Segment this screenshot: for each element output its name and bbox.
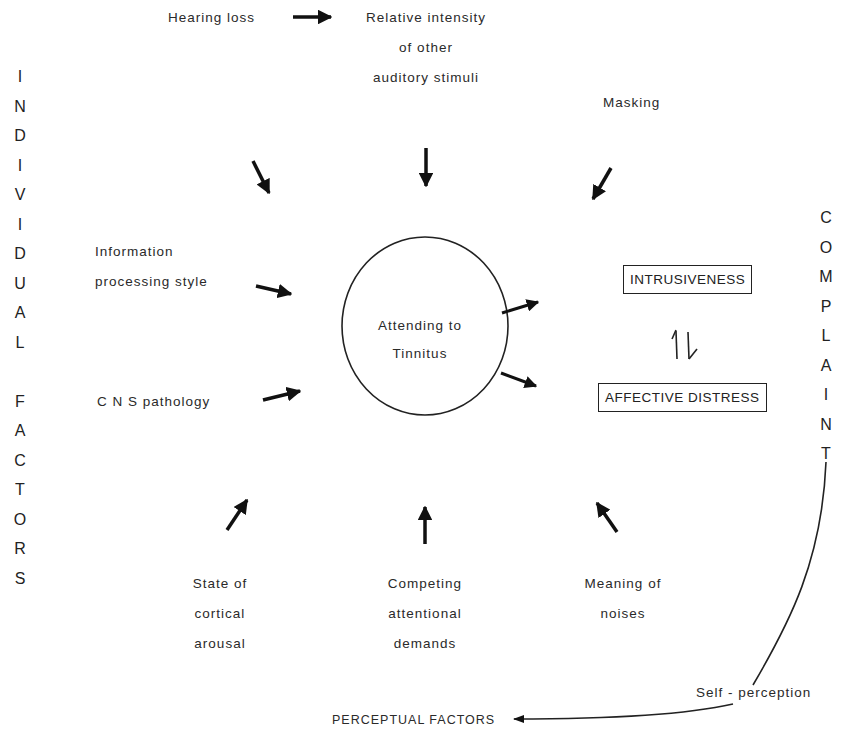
- attending-circle: [342, 237, 508, 415]
- arrow-info-to-center: [256, 286, 291, 294]
- arrow-cns-to-center: [263, 391, 300, 400]
- self-perception-curve: [753, 462, 826, 685]
- arrow-center-to-intrusiveness: [502, 302, 538, 313]
- bidirectional-arrow-icon: [672, 330, 697, 359]
- arrow-meaning-to-center: [597, 503, 617, 532]
- arrow-masking-to-center: [593, 168, 611, 199]
- arrow-arousal-to-center: [227, 500, 247, 530]
- diagram-graphics: [0, 0, 864, 751]
- arrow-center-to-distress: [501, 373, 536, 386]
- self-perception-arrow: [514, 704, 733, 719]
- arrow-hearing-to-center: [253, 161, 269, 193]
